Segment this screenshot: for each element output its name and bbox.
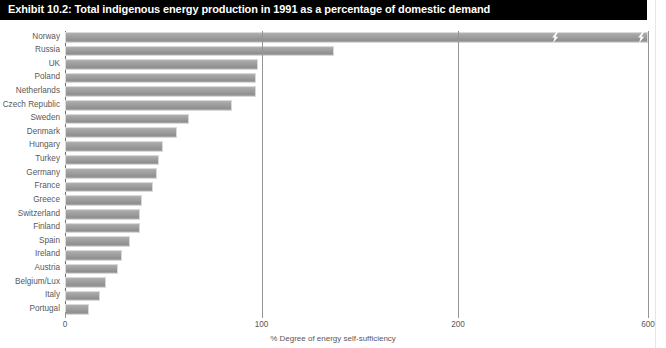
- bars-container: NorwayRussiaUKPolandNetherlandsCzech Rep…: [0, 31, 666, 312]
- bar: [65, 277, 106, 288]
- bar-row: Austria: [0, 263, 666, 277]
- bar-row: Italy: [0, 290, 666, 304]
- bar-row: Russia: [0, 45, 666, 59]
- chart-figure: Exhibit 10.2: Total indigenous energy pr…: [0, 0, 666, 348]
- category-label: Finland: [0, 222, 60, 231]
- category-label: Russia: [0, 45, 60, 54]
- category-label: Netherlands: [0, 86, 60, 95]
- bar-row: Poland: [0, 72, 666, 86]
- bar-row: Germany: [0, 167, 666, 181]
- x-axis: % Degree of energy self-sufficiency 0100…: [0, 312, 666, 348]
- category-label: Austria: [0, 263, 60, 272]
- bar: [65, 59, 258, 70]
- bar: [65, 209, 140, 220]
- bar-row: Hungary: [0, 140, 666, 154]
- bar: [65, 46, 334, 57]
- bar: [65, 127, 177, 138]
- category-label: Spain: [0, 236, 60, 245]
- axis-break-mark-icon: [550, 32, 561, 43]
- category-label: Germany: [0, 168, 60, 177]
- bar: [65, 236, 130, 247]
- bar: [65, 264, 118, 275]
- gridline: [458, 31, 459, 314]
- x-axis-tick-label: 0: [63, 320, 68, 329]
- category-label: Denmark: [0, 127, 60, 136]
- category-label: Turkey: [0, 154, 60, 163]
- category-label: Hungary: [0, 140, 60, 149]
- bar: [65, 195, 142, 206]
- category-label: UK: [0, 59, 60, 68]
- bar: [65, 291, 100, 302]
- bar: [65, 250, 122, 261]
- axis-break-mark-icon: [636, 32, 647, 43]
- x-axis-tick-label: 600: [641, 320, 655, 329]
- bar: [65, 155, 159, 166]
- category-label: Czech Republic: [0, 100, 60, 109]
- bar-row: Norway: [0, 31, 666, 45]
- bar-row: Spain: [0, 235, 666, 249]
- bar: [65, 223, 140, 234]
- bar: [65, 100, 232, 111]
- x-axis-tick-label: 100: [255, 320, 269, 329]
- bar: [65, 168, 157, 179]
- bar-row: Belgium/Lux: [0, 276, 666, 290]
- x-axis-tick-label: 200: [451, 320, 465, 329]
- gridline: [262, 31, 263, 314]
- bar-row: Turkey: [0, 154, 666, 168]
- bar: [65, 141, 163, 152]
- bar-row: Czech Republic: [0, 99, 666, 113]
- bar: [65, 73, 256, 84]
- bar-row: France: [0, 181, 666, 195]
- bar-row: Ireland: [0, 249, 666, 263]
- category-label: Greece: [0, 195, 60, 204]
- bar: [65, 182, 153, 193]
- category-label: France: [0, 181, 60, 190]
- bar: [65, 86, 256, 97]
- bar-row: Denmark: [0, 126, 666, 140]
- bar-row: Switzerland: [0, 208, 666, 222]
- category-label: Belgium/Lux: [0, 277, 60, 286]
- gridline: [648, 31, 649, 314]
- category-label: Switzerland: [0, 209, 60, 218]
- bar: [65, 114, 189, 125]
- category-label: Sweden: [0, 113, 60, 122]
- x-axis-tick: [65, 312, 66, 318]
- bar-row: Greece: [0, 194, 666, 208]
- bar-row: Finland: [0, 222, 666, 236]
- title-bar: Exhibit 10.2: Total indigenous energy pr…: [0, 0, 647, 20]
- bar-row: Netherlands: [0, 85, 666, 99]
- page-title: Exhibit 10.2: Total indigenous energy pr…: [8, 3, 490, 15]
- x-axis-title: % Degree of energy self-sufficiency: [0, 334, 666, 343]
- category-label: Ireland: [0, 249, 60, 258]
- bar-row: Sweden: [0, 113, 666, 127]
- category-label: Norway: [0, 32, 60, 41]
- bar-row: UK: [0, 58, 666, 72]
- page-edge-bleed: [655, 0, 666, 348]
- category-label: Poland: [0, 72, 60, 81]
- category-label: Italy: [0, 290, 60, 299]
